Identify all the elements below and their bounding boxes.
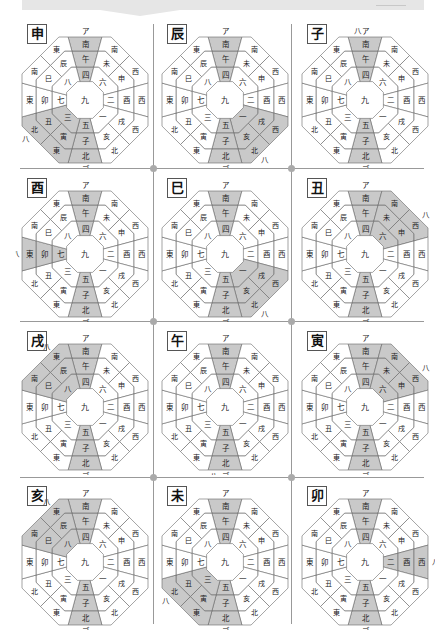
bottom-mark: ゴ bbox=[222, 471, 230, 475]
label-NW-inner: 一 bbox=[239, 420, 247, 429]
label-S-inner: 四 bbox=[222, 533, 229, 542]
label-NE-inner: 三 bbox=[344, 420, 351, 429]
label-SE-inner: 八 bbox=[64, 540, 72, 549]
label-NE-outer-0: 東 bbox=[333, 608, 340, 617]
label-SE-outer-0: 南 bbox=[311, 221, 318, 230]
label-NE-outer-1: 北 bbox=[31, 126, 38, 134]
label-W-middle: 酉 bbox=[403, 403, 411, 412]
label-S-inner: 四 bbox=[362, 378, 369, 387]
label-SW-outer-1: 西 bbox=[412, 222, 419, 230]
label-SE-middle-0: 巳 bbox=[325, 229, 332, 237]
label-SE-inner: 八 bbox=[64, 385, 72, 394]
label-W-outer: 西 bbox=[138, 250, 146, 259]
label-SE-outer-0: 南 bbox=[31, 529, 38, 538]
label-center: 九 bbox=[361, 96, 369, 105]
label-N-outer: 北 bbox=[222, 306, 230, 315]
label-SW-inner: 六 bbox=[99, 539, 107, 549]
label-SE-outer-0: 南 bbox=[31, 67, 38, 76]
label-SE-outer-1: 東 bbox=[333, 352, 340, 361]
label-N-outer: 北 bbox=[82, 614, 90, 623]
label-center: 九 bbox=[81, 403, 89, 412]
top-mark: ア bbox=[222, 181, 229, 190]
label-SW-middle-1: 申 bbox=[118, 74, 125, 83]
label-SE-middle-1: 辰 bbox=[340, 60, 347, 68]
bottom-mark: ゴ bbox=[362, 164, 370, 168]
label-E-middle: 卯 bbox=[181, 558, 188, 567]
label-E-inner: 七 bbox=[57, 403, 65, 412]
label-E-inner: 七 bbox=[337, 250, 345, 259]
label-NW-outer-1: 北 bbox=[251, 609, 258, 617]
compass-diagram: 四午南六未申南西二酉西一戌亥西北五子北三寅丑東北七卯東八巳辰南東九アゴ八 bbox=[295, 18, 435, 168]
label-SE-middle-0: 巳 bbox=[325, 75, 332, 83]
label-N-inner: 五 bbox=[362, 428, 370, 437]
label-NE-middle-0: 寅 bbox=[340, 286, 347, 295]
label-NW-inner: 一 bbox=[99, 575, 107, 584]
compass-diagram: 四午南六未申南西二酉西一戌亥西北五子北三寅丑東北七卯東八巳辰南東九アゴ八 bbox=[295, 325, 435, 475]
label-SW-inner: 六 bbox=[379, 77, 387, 87]
label-S-middle: 午 bbox=[362, 54, 370, 64]
label-NE-outer-0: 東 bbox=[53, 453, 60, 462]
label-NE-outer-1: 北 bbox=[311, 588, 318, 596]
label-SE-inner: 八 bbox=[64, 78, 72, 87]
label-SE-middle-1: 辰 bbox=[60, 522, 67, 530]
label-W-inner: 二 bbox=[387, 96, 395, 105]
label-SW-inner: 六 bbox=[239, 384, 247, 394]
label-NW-middle-1: 亥 bbox=[103, 594, 110, 603]
compass-diagram: 四午南六未申南西二酉西一戌亥西北五子北三寅丑東北七卯東八巳辰南東九アゴ八 bbox=[15, 325, 155, 475]
label-NE-middle-0: 寅 bbox=[60, 132, 67, 141]
label-NW-outer-0: 西 bbox=[132, 126, 139, 134]
compass-diagram: 四午南六未申南西二酉西一戌亥西北五子北三寅丑東北七卯東八巳辰南東九アゴ八 bbox=[15, 18, 155, 168]
label-SW-middle-0: 未 bbox=[383, 521, 390, 530]
label-SE-inner: 八 bbox=[344, 232, 352, 241]
label-S-outer: 南 bbox=[82, 39, 90, 49]
label-SE-inner: 八 bbox=[204, 540, 212, 549]
label-NW-middle-0: 戌 bbox=[118, 271, 125, 280]
label-NE-middle-1: 丑 bbox=[45, 118, 52, 126]
label-NW-inner: 一 bbox=[379, 575, 387, 584]
highlight-mark: 八 bbox=[354, 27, 362, 36]
label-W-inner: 二 bbox=[107, 96, 115, 105]
label-E-inner: 七 bbox=[337, 96, 345, 105]
label-NE-outer-1: 北 bbox=[311, 433, 318, 441]
label-SE-outer-1: 東 bbox=[193, 507, 200, 516]
bottom-mark: ゴ bbox=[222, 164, 230, 168]
compass-diagram: 四午南六未申南西二酉西一戌亥西北五子北三寅丑東北七卯東八巳辰南東九アゴ八 bbox=[155, 172, 295, 322]
label-N-middle: 子 bbox=[82, 599, 90, 608]
label-SE-outer-1: 東 bbox=[53, 199, 60, 208]
label-NW-middle-1: 亥 bbox=[383, 439, 390, 448]
label-S-inner: 四 bbox=[222, 225, 229, 234]
label-NE-inner: 三 bbox=[204, 113, 211, 122]
highlight-mark: 八 bbox=[261, 156, 269, 165]
bottom-mark: ゴ bbox=[222, 318, 230, 322]
label-S-outer: 南 bbox=[82, 501, 90, 511]
label-NW-middle-0: 戌 bbox=[258, 117, 265, 126]
label-SE-middle-1: 辰 bbox=[200, 522, 207, 530]
label-NE-middle-1: 丑 bbox=[325, 118, 332, 126]
label-SW-outer-0: 南 bbox=[251, 199, 258, 208]
label-SW-inner: 六 bbox=[99, 77, 107, 87]
label-N-inner: 五 bbox=[82, 428, 90, 437]
label-NE-inner: 三 bbox=[204, 420, 211, 429]
label-SE-middle-0: 巳 bbox=[45, 382, 52, 390]
label-center: 九 bbox=[361, 558, 369, 567]
label-SW-middle-1: 申 bbox=[118, 536, 125, 545]
top-mark: ア bbox=[362, 334, 369, 343]
compass-diagram: 四午南六未申南西二酉西一戌亥西北五子北三寅丑東北七卯東八巳辰南東九アゴ八 bbox=[15, 172, 155, 322]
label-S-middle: 午 bbox=[82, 361, 90, 371]
label-NW-outer-0: 西 bbox=[132, 280, 139, 288]
label-SW-middle-0: 未 bbox=[243, 59, 250, 68]
label-S-middle: 午 bbox=[362, 516, 370, 526]
label-SW-inner: 六 bbox=[379, 384, 387, 394]
label-N-outer: 北 bbox=[82, 152, 90, 161]
label-W-middle: 酉 bbox=[403, 558, 411, 567]
label-NW-middle-1: 亥 bbox=[243, 286, 250, 295]
label-SW-outer-0: 南 bbox=[111, 507, 118, 516]
compass-grid: 申 四午南六未申南西二酉西一戌亥西北五子北三寅丑東北七卯東八巳辰南東九アゴ八 辰… bbox=[0, 0, 444, 636]
label-NE-outer-1: 北 bbox=[171, 280, 178, 288]
label-N-inner: 五 bbox=[362, 121, 370, 130]
highlight-mark: 八 bbox=[162, 597, 170, 606]
label-center: 九 bbox=[81, 558, 89, 567]
label-NW-middle-1: 亥 bbox=[243, 594, 250, 603]
label-S-inner: 四 bbox=[82, 71, 89, 80]
compass-panel: 寅 四午南六未申南西二酉西一戌亥西北五子北三寅丑東北七卯東八巳辰南東九アゴ八 bbox=[295, 325, 435, 475]
